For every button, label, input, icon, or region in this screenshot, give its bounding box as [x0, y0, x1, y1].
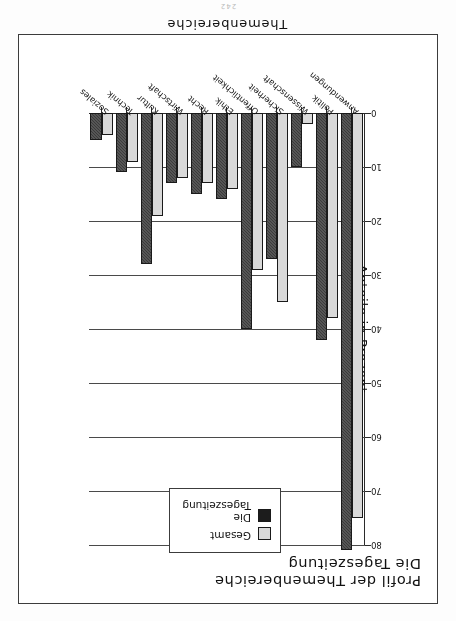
- bar-group: Wirtschaft: [164, 113, 189, 545]
- bar-group: Sicherheit: [265, 113, 290, 545]
- bar-gesamt: [152, 113, 163, 216]
- bar-tageszeitung: [191, 113, 202, 194]
- legend-item: Die Tageszeitung: [182, 500, 271, 524]
- chart-title-block: Profil der Themenbereiche Die Tageszeitu…: [215, 555, 421, 589]
- bar-tageszeitung: [241, 113, 252, 329]
- bar-tageszeitung: [316, 113, 327, 340]
- chart-subtitle: Die Tageszeitung: [215, 555, 421, 572]
- plot-area: 01020304050607080 Anteile in Prozent Anw…: [89, 113, 365, 545]
- bar-group: Wissenschaft: [290, 113, 315, 545]
- bar-tageszeitung: [216, 113, 227, 199]
- bar-gesamt: [227, 113, 238, 189]
- value-axis-tick-label: 40: [371, 324, 395, 334]
- value-axis-tick-label: 30: [371, 270, 395, 280]
- page-number: 242: [0, 2, 456, 10]
- bar-tageszeitung: [166, 113, 177, 183]
- value-axis-tick-label: 0: [371, 108, 395, 118]
- bar-gesamt: [252, 113, 263, 270]
- legend-label: Die Tageszeitung: [182, 500, 251, 524]
- bar-group: Technik: [114, 113, 139, 545]
- bar-groups: AnwendungenPolitikWissenschaftSicherheit…: [89, 113, 365, 545]
- bar-tageszeitung: [116, 113, 127, 172]
- bar-group: Öffentlichkeit: [240, 113, 265, 545]
- category-axis-title: Themenbereiche: [89, 17, 365, 32]
- bar-tageszeitung: [90, 113, 101, 140]
- legend-label: Gesamt: [210, 530, 251, 542]
- bar-gesamt: [202, 113, 213, 183]
- bar-group: Soziales: [89, 113, 114, 545]
- bar-group: Politik: [315, 113, 340, 545]
- value-axis-tick-label: 80: [371, 540, 395, 550]
- value-axis-tick-label: 60: [371, 432, 395, 442]
- bar-gesamt: [327, 113, 338, 318]
- legend-item: Gesamt: [182, 527, 271, 542]
- legend-swatch: [258, 509, 271, 522]
- bar-gesamt: [352, 113, 363, 518]
- scanned-page: 242 Profil der Themenbereiche Die Tagesz…: [0, 0, 456, 621]
- figure-frame: Profil der Themenbereiche Die Tageszeitu…: [18, 34, 438, 604]
- chart-title: Profil der Themenbereiche: [215, 572, 421, 589]
- bar-group: Kultur: [139, 113, 164, 545]
- value-axis-tick-label: 70: [371, 486, 395, 496]
- figure-rotated-container: Profil der Themenbereiche Die Tageszeitu…: [18, 34, 438, 604]
- bar-gesamt: [127, 113, 138, 162]
- bar-tageszeitung: [141, 113, 152, 264]
- bar-gesamt: [177, 113, 188, 178]
- bar-gesamt: [277, 113, 288, 302]
- bar-tageszeitung: [341, 113, 352, 550]
- value-axis-tick-label: 20: [371, 216, 395, 226]
- legend-swatch: [258, 527, 271, 540]
- bar-group: Recht: [189, 113, 214, 545]
- bar-tageszeitung: [266, 113, 277, 259]
- bar-tageszeitung: [291, 113, 302, 167]
- bar-group: Anwendungen: [340, 113, 365, 545]
- value-axis-tick-label: 10: [371, 162, 395, 172]
- bar-group: Ethik: [214, 113, 239, 545]
- chart-legend: GesamtDie Tageszeitung: [169, 488, 281, 553]
- value-axis-tick-label: 50: [371, 378, 395, 388]
